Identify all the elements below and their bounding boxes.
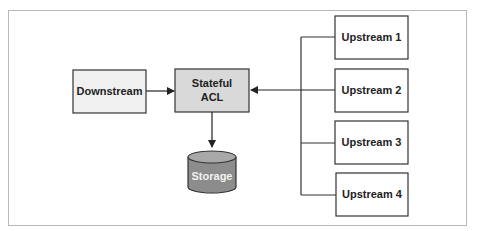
upstream-node-3: Upstream 3 (335, 121, 408, 164)
acl-label-line1: Stateful (192, 77, 232, 89)
upstream-node-2: Upstream 2 (335, 69, 408, 112)
upstream-node-4: Upstream 4 (336, 173, 408, 216)
acl-label-line2: ACL (201, 91, 224, 103)
stateful-acl-node: Stateful ACL (175, 69, 249, 112)
upstream-3-label: Upstream 3 (342, 136, 402, 148)
upstream-2-label: Upstream 2 (342, 84, 402, 96)
storage-node: Storage (188, 151, 236, 193)
diagram-canvas: Downstream Stateful ACL Storage Upstream… (0, 0, 480, 231)
upstream-4-label: Upstream 4 (342, 188, 403, 200)
upstream-bus (301, 37, 336, 195)
downstream-node: Downstream (73, 70, 146, 113)
upstream-node-1: Upstream 1 (335, 16, 408, 59)
upstream-1-label: Upstream 1 (342, 31, 402, 43)
storage-label: Storage (192, 170, 233, 182)
downstream-label: Downstream (76, 85, 142, 97)
